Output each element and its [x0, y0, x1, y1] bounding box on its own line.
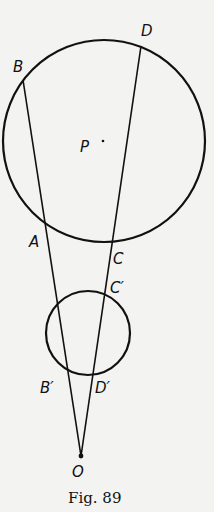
figure-caption: Fig. 89 — [68, 489, 121, 507]
vertex-dot-O — [79, 454, 84, 459]
small-circle — [46, 291, 130, 375]
label-C: C — [113, 250, 124, 268]
label-B: B — [13, 58, 23, 76]
label-P: P — [80, 138, 90, 156]
geometry-figure: B D P A C C′ B′ D′ O Fig. 89 — [0, 0, 214, 512]
line-OD — [81, 46, 141, 456]
label-O: O — [72, 463, 84, 481]
label-D: D — [141, 22, 153, 40]
figure-canvas: B D P A C C′ B′ D′ O Fig. 89 — [0, 0, 214, 512]
line-OB — [23, 80, 81, 456]
label-B-prime: B′ — [40, 379, 54, 397]
label-A: A — [28, 233, 39, 251]
center-dot-P — [102, 140, 105, 143]
label-D-prime: D′ — [95, 379, 111, 397]
label-C-prime: C′ — [110, 279, 124, 297]
